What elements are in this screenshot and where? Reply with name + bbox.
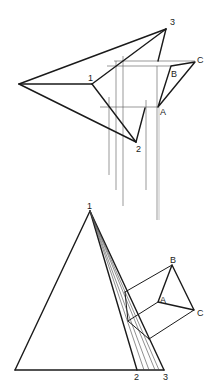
label-B: B xyxy=(171,69,177,79)
pyramid-edge xyxy=(136,108,145,142)
pyramid-edge-1-2 xyxy=(90,211,137,370)
construction-line xyxy=(90,211,149,370)
descriptive-geometry-drawing: 3 1 2 A B C 1 xyxy=(0,0,219,384)
construction-line xyxy=(90,211,144,370)
label-C: C xyxy=(197,55,204,65)
label-A: A xyxy=(160,295,166,305)
label-2: 2 xyxy=(136,144,141,154)
pyramid-edge xyxy=(92,84,136,142)
label-1: 1 xyxy=(87,201,92,211)
prism-edge-b xyxy=(125,265,172,292)
prism-edge-c xyxy=(149,310,194,339)
label-3: 3 xyxy=(163,372,168,382)
label-C: C xyxy=(197,308,204,318)
prism-edge-a xyxy=(128,302,158,321)
label-2: 2 xyxy=(134,372,139,382)
pyramid-edge xyxy=(92,29,166,84)
construction-line xyxy=(90,211,159,370)
pyramid-edge xyxy=(15,211,90,370)
label-A: A xyxy=(160,107,166,117)
front-view: 1 2 3 A B C xyxy=(15,201,204,382)
label-1: 1 xyxy=(88,73,93,83)
label-3: 3 xyxy=(170,17,175,27)
label-B: B xyxy=(170,255,176,265)
top-view: 3 1 2 A B C xyxy=(19,17,204,220)
construction-line xyxy=(90,211,155,370)
pyramid-edge xyxy=(19,84,136,142)
